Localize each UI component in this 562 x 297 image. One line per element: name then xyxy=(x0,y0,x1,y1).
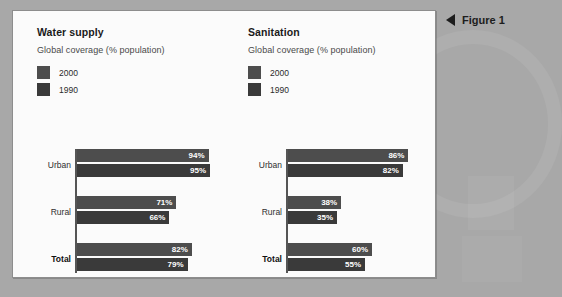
legend-item[interactable]: 1990 xyxy=(248,83,435,96)
bar-value-label: 55% xyxy=(345,260,365,269)
chart-subtitle: Global coverage (% population) xyxy=(248,45,435,55)
legend-item[interactable]: 1990 xyxy=(37,83,224,96)
triangle-left-icon xyxy=(446,14,455,26)
bar: 94% xyxy=(77,149,209,162)
bar-group: Urban86%82% xyxy=(248,149,428,179)
chart-title: Sanitation xyxy=(248,26,435,38)
bar: 82% xyxy=(77,243,192,256)
bar: 35% xyxy=(288,211,337,224)
bar-value-label: 95% xyxy=(190,166,210,175)
bar-value-label: 79% xyxy=(168,260,188,269)
bar: 38% xyxy=(288,196,341,209)
bar-group: Rural38%35% xyxy=(248,196,428,226)
plot-area: Urban94%95%Rural71%66%Total82%79% xyxy=(37,149,217,273)
legend-item[interactable]: 2000 xyxy=(37,66,224,79)
bar: 71% xyxy=(77,196,176,209)
bar-group: Rural71%66% xyxy=(37,196,217,226)
category-label: Total xyxy=(248,254,282,264)
figure-panel: Water supplyGlobal coverage (% populatio… xyxy=(12,10,436,278)
chart-water-supply: Water supplyGlobal coverage (% populatio… xyxy=(13,26,224,277)
bar-value-label: 38% xyxy=(321,198,341,207)
category-label: Rural xyxy=(37,207,71,217)
legend-swatch-icon xyxy=(248,66,261,79)
bar: 55% xyxy=(288,258,365,271)
bar: 95% xyxy=(77,164,210,177)
bar-value-label: 66% xyxy=(149,213,169,222)
bar-value-label: 82% xyxy=(172,245,192,254)
legend-swatch-icon xyxy=(37,83,50,96)
bar: 82% xyxy=(288,164,403,177)
bar-value-label: 86% xyxy=(388,151,408,160)
bar: 60% xyxy=(288,243,372,256)
chart-legend: 20001990 xyxy=(248,66,435,96)
figure-caption-label: Figure 1 xyxy=(462,14,505,26)
bar-value-label: 94% xyxy=(189,151,209,160)
bar: 86% xyxy=(288,149,408,162)
bar-value-label: 82% xyxy=(383,166,403,175)
chart-subtitle: Global coverage (% population) xyxy=(37,45,224,55)
chart-legend: 20001990 xyxy=(37,66,224,96)
legend-swatch-icon xyxy=(248,83,261,96)
background-block-decoration-2 xyxy=(462,236,522,282)
plot-area: Urban86%82%Rural38%35%Total60%55% xyxy=(248,149,428,273)
category-label: Rural xyxy=(248,207,282,217)
category-label: Urban xyxy=(248,160,282,170)
legend-label: 1990 xyxy=(59,85,78,95)
bar-group: Urban94%95% xyxy=(37,149,217,179)
bar: 66% xyxy=(77,211,169,224)
bar-value-label: 60% xyxy=(352,245,372,254)
charts-container: Water supplyGlobal coverage (% populatio… xyxy=(13,11,435,277)
legend-label: 2000 xyxy=(59,68,78,78)
legend-label: 1990 xyxy=(270,85,289,95)
legend-swatch-icon xyxy=(37,66,50,79)
bar-group: Total60%55% xyxy=(248,243,428,273)
chart-sanitation: SanitationGlobal coverage (% population)… xyxy=(224,26,435,277)
bar-value-label: 71% xyxy=(156,198,176,207)
category-label: Total xyxy=(37,254,71,264)
category-label: Urban xyxy=(37,160,71,170)
figure-caption: Figure 1 xyxy=(446,14,505,26)
chart-title: Water supply xyxy=(37,26,224,38)
bar-value-label: 35% xyxy=(317,213,337,222)
legend-label: 2000 xyxy=(270,68,289,78)
bar-group: Total82%79% xyxy=(37,243,217,273)
background-block-decoration xyxy=(468,176,514,230)
legend-item[interactable]: 2000 xyxy=(248,66,435,79)
bar: 79% xyxy=(77,258,188,271)
